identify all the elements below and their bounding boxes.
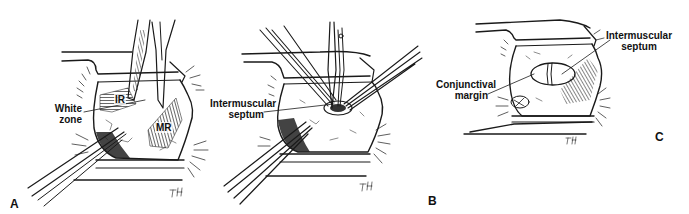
panel-a-drawing xyxy=(0,0,215,214)
label-septum-b-line1: Intermuscular xyxy=(210,98,270,109)
label-septum-c-line2: septum xyxy=(604,41,674,52)
surgical-illustration-figure: White zone IR MR A xyxy=(0,0,689,214)
panel-letter-a: A xyxy=(10,197,19,211)
panel-letter-c: C xyxy=(655,130,664,144)
label-septum-c-line1: Intermuscular xyxy=(604,30,674,41)
label-white-zone-line1: White xyxy=(44,103,82,114)
panel-a: White zone IR MR A xyxy=(0,0,215,214)
label-septum-b-line2: septum xyxy=(210,109,270,120)
label-conj-line1: Conjunctival xyxy=(436,79,488,90)
label-white-zone: White zone xyxy=(44,103,82,125)
label-white-zone-line2: zone xyxy=(44,114,82,125)
label-mr-medial-rectus: MR xyxy=(155,122,173,133)
label-ir-inferior-rectus: IR xyxy=(114,94,126,105)
panel-c: Intermuscular septum Conjunctival margin… xyxy=(450,0,689,214)
label-intermuscular-septum-c: Intermuscular septum xyxy=(604,30,674,52)
label-conjunctival-margin: Conjunctival margin xyxy=(436,79,488,101)
label-conj-line2: margin xyxy=(436,90,488,101)
label-intermuscular-septum-b: Intermuscular septum xyxy=(210,98,270,120)
panel-letter-b: B xyxy=(428,194,437,208)
panel-b: Intermuscular septum B xyxy=(210,0,450,214)
